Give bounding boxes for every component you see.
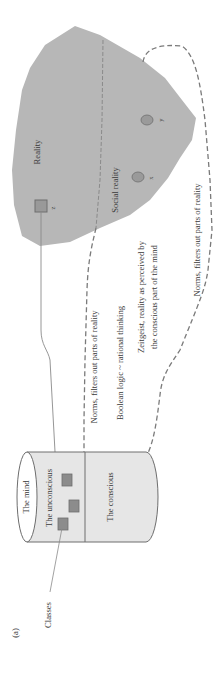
zeitgeist-label-line1: Zeitgeist, reality as perceived by — [136, 240, 146, 353]
class-box-1 — [62, 474, 72, 486]
zeitgeist-label-line2: the conscious part of the mind — [149, 244, 159, 349]
social-reality-label: Social reality — [110, 167, 120, 213]
panel-label: (a) — [10, 628, 20, 638]
class-box-3 — [58, 518, 68, 530]
point-z-label: z — [49, 206, 56, 209]
mind-reality-diagram: z x y Reality Social reality The mind Th… — [0, 0, 224, 675]
norms-outer-label: Norms, filters out parts of reality — [192, 183, 202, 297]
point-z-square — [35, 200, 47, 212]
reality-label: Reality — [32, 139, 42, 165]
point-x-circle — [132, 172, 144, 182]
conscious-label: The conscious — [105, 472, 115, 522]
unconscious-label: The unconscious — [44, 468, 54, 527]
mind-cylinder — [17, 452, 158, 542]
boolean-logic-label: Boolean logic ~ rational thinking — [115, 305, 125, 420]
reality-region — [12, 26, 196, 246]
class-box-2 — [69, 500, 79, 512]
norms-inner-label: Norms, filters out parts of reality — [89, 310, 99, 424]
mind-title: The mind — [21, 480, 31, 514]
point-y-circle — [141, 115, 153, 125]
classes-label: Classes — [43, 601, 53, 627]
z-to-unconscious-connector — [41, 212, 66, 478]
